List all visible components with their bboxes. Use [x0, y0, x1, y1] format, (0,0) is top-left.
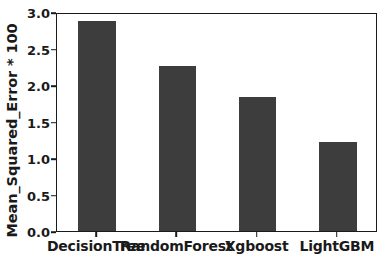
bar — [159, 66, 197, 231]
x-tick-label: LightGBM — [299, 238, 374, 254]
x-tick-label: RandomForest — [120, 238, 232, 254]
bar-chart-figure: Mean_Squared_Error * 100 0.00.51.01.52.0… — [0, 0, 390, 261]
x-tick-label: Xgboost — [225, 238, 289, 254]
bar — [319, 142, 357, 231]
x-tick-mark — [95, 232, 97, 237]
y-axis-label: Mean_Squared_Error * 100 — [0, 0, 24, 261]
bar — [78, 21, 116, 231]
x-tick-mark — [336, 232, 338, 237]
bar — [239, 97, 277, 231]
x-tick-mark — [256, 232, 258, 237]
plot-area — [56, 13, 377, 232]
x-tick-mark — [176, 232, 178, 237]
